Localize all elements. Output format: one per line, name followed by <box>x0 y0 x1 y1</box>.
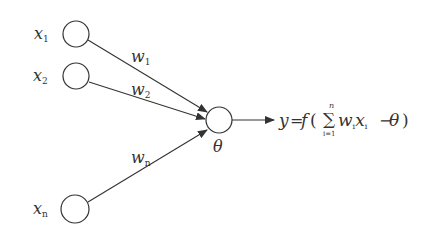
threshold-label: θ <box>213 137 223 156</box>
input-circle-x2 <box>63 63 89 89</box>
input-label-x1: x1 <box>34 24 49 44</box>
input-circle-xn <box>61 195 89 223</box>
formula-term: wixi <box>338 110 368 131</box>
sum-symbol: ∑ <box>323 109 335 129</box>
formula-func: f <box>299 110 310 130</box>
formula-open-paren: ( <box>310 110 317 130</box>
input-node-x1: x1 <box>34 21 89 47</box>
input-circle-x1 <box>63 21 89 47</box>
sum-lower-limit: i=1 <box>323 130 336 138</box>
neuron-node: θ <box>206 107 232 156</box>
input-label-xn: xn <box>33 199 48 219</box>
input-node-xn: xn <box>33 195 89 223</box>
weight-label-w1: w1 <box>131 47 150 67</box>
formula-theta: θ <box>389 110 399 130</box>
formula-lhs: y <box>278 110 289 130</box>
output-formula: y = f ( n ∑ i=1 wixi − θ ) <box>278 101 409 138</box>
input-label-x2: x2 <box>33 66 48 86</box>
formula-close-paren: ) <box>402 110 409 130</box>
weight-label-w2: w2 <box>131 80 150 100</box>
input-node-x2: x2 <box>33 63 89 89</box>
weight-label-wn: wn <box>131 148 151 168</box>
neuron-circle <box>206 107 232 133</box>
neuron-diagram: x1 x2 xn w1 w2 wn θ y = f ( <box>0 0 446 228</box>
